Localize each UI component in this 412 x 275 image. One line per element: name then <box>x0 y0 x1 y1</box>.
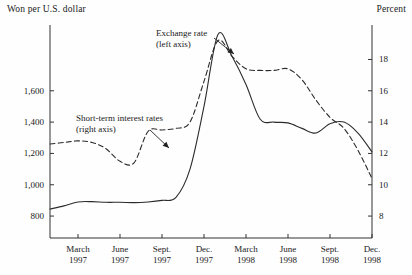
axis-ticks <box>50 59 372 238</box>
series-line-short-term-interest-rates <box>50 40 372 179</box>
annotation-arrows <box>150 38 234 148</box>
plot-area <box>0 0 412 275</box>
data-series <box>50 33 372 209</box>
chart-figure: Won per U.S. dollar Percent Exchange rat… <box>0 0 412 275</box>
